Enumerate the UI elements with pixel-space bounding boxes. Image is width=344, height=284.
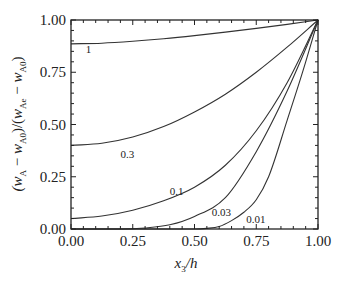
x-tick-labels: 0.000.250.500.751.00 [58, 233, 331, 249]
x-tick-label: 0.25 [120, 233, 146, 249]
curve-label: 0.03 [212, 206, 232, 218]
axis-ticks [71, 20, 318, 229]
svg-text:(wA − wA0)/(wAe − wA0): (wA − wA0)/(wAe − wA0) [9, 56, 28, 191]
curve-0-3 [71, 20, 318, 145]
y-tick-label: 0.25 [40, 169, 66, 185]
curve-0-01 [71, 20, 318, 229]
curve-labels: 10.30.10.030.01 [86, 43, 266, 224]
x-tick-label: 0.75 [243, 233, 269, 249]
y-tick-label: 1.00 [40, 12, 66, 28]
curve-label: 0.01 [246, 213, 265, 225]
curve-label: 0.3 [120, 148, 134, 160]
y-tick-label: 0.75 [40, 64, 66, 80]
y-tick-labels: 0.000.250.500.751.00 [40, 12, 66, 237]
curve-label: 1 [86, 43, 92, 55]
curve-label: 0.1 [170, 185, 184, 197]
line-chart: 10.30.10.030.01 0.000.250.500.751.00 0.0… [0, 0, 344, 284]
curve-0-03 [71, 20, 318, 229]
x-tick-label: 1.00 [305, 233, 331, 249]
x-tick-label: 0.50 [181, 233, 207, 249]
y-tick-label: 0.00 [40, 221, 66, 237]
curves [71, 20, 318, 229]
plot-frame [71, 20, 318, 229]
y-tick-label: 0.50 [40, 117, 66, 133]
x-axis-title: x3/h [174, 255, 198, 274]
y-axis-title: (wA − wA0)/(wAe − wA0) [9, 56, 28, 191]
curve-0-1 [71, 20, 318, 219]
